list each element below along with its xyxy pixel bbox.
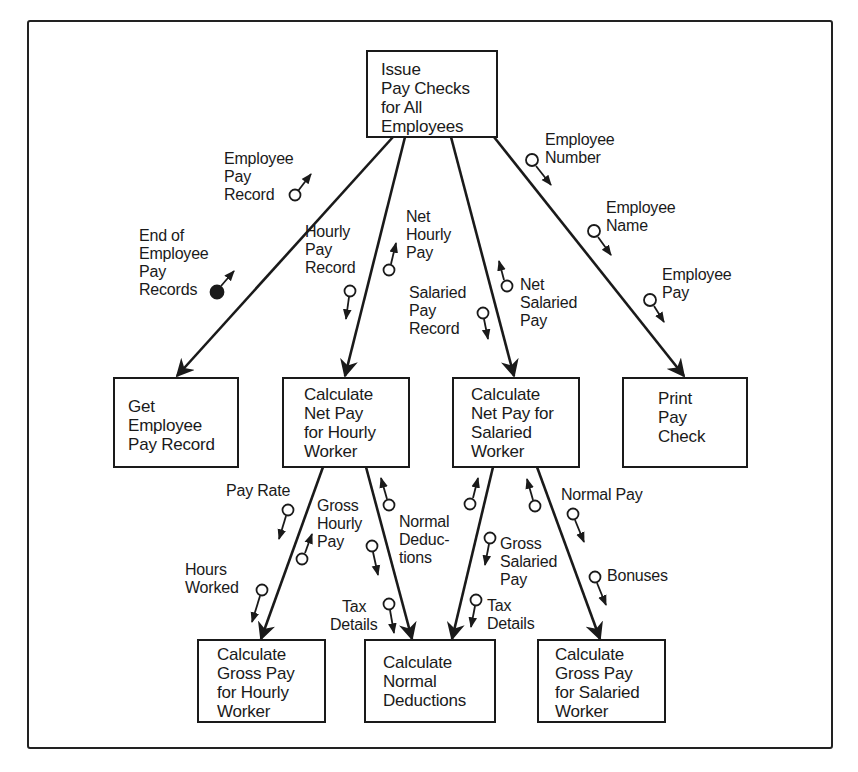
label-line: Pay	[520, 312, 577, 330]
label-line: Details	[487, 615, 535, 633]
label-line: Pay	[317, 533, 362, 551]
label-tax-details-salaried: Tax Details	[487, 597, 535, 633]
module-line: Deductions	[383, 691, 484, 710]
couple-normal-deductions-salaried-icon	[465, 478, 479, 510]
couple-tax-details-hourly-b-icon	[384, 599, 395, 634]
label-normal-deductions: Normal Deduc- tions	[399, 513, 449, 567]
label-line: Hours	[185, 561, 239, 579]
label-line: Worked	[185, 579, 239, 597]
module-line: Net Pay	[304, 404, 398, 423]
couple-bonuses-icon	[590, 572, 607, 606]
label-salaried-pay-record: Salaried Pay Record	[409, 284, 466, 338]
label-line: Gross	[500, 535, 557, 553]
label-employee-pay-record: Employee Pay Record	[224, 150, 294, 204]
module-line: Get	[128, 397, 227, 416]
label-net-hourly-pay: Net Hourly Pay	[406, 208, 451, 262]
label-line: Salaried	[500, 553, 557, 571]
label-line: Details	[330, 616, 378, 634]
module-line: Pay Record	[128, 435, 227, 454]
label-line: Employee	[545, 131, 615, 149]
module-print-pay-check: Print Pay Check	[622, 377, 748, 468]
module-line: Calculate	[383, 653, 484, 672]
label-tax-details-hourly: Tax Details	[330, 598, 378, 634]
label-line: Hourly	[305, 223, 355, 241]
module-line: Print	[658, 389, 736, 408]
label-line: Pay	[662, 284, 732, 302]
couple-hours-worked-icon	[252, 585, 268, 623]
label-line: Pay	[305, 241, 355, 259]
module-normal-deductions: Calculate Normal Deductions	[364, 639, 496, 723]
module-line: for All	[381, 98, 486, 117]
label-line: Hourly	[317, 515, 362, 533]
label-bonuses: Bonuses	[607, 567, 668, 585]
label-employee-pay: Employee Pay	[662, 266, 732, 302]
module-line: Calculate	[555, 645, 654, 664]
label-line: Bonuses	[607, 567, 668, 585]
label-line: Record	[224, 186, 294, 204]
label-line: Pay	[224, 168, 294, 186]
label-gross-salaried-pay: Gross Salaried Pay	[500, 535, 557, 589]
module-line: Normal	[383, 672, 484, 691]
label-line: Record	[409, 320, 466, 338]
couple-end-of-records-icon	[211, 271, 235, 299]
label-line: Number	[545, 149, 615, 167]
module-net-pay-salaried: Calculate Net Pay for Salaried Worker	[452, 377, 580, 468]
module-line: Net Pay for	[471, 404, 568, 423]
module-line: Gross Pay	[555, 664, 654, 683]
couple-salaried-pay-record-icon	[478, 308, 489, 340]
couple-net-hourly-pay-icon	[384, 243, 397, 276]
module-line: Calculate	[471, 385, 568, 404]
module-line: for Hourly	[304, 423, 398, 442]
label-hours-worked: Hours Worked	[185, 561, 239, 597]
label-line: Pay	[409, 302, 466, 320]
label-line: Employee	[224, 150, 294, 168]
module-gross-pay-hourly: Calculate Gross Pay for Hourly Worker	[197, 639, 326, 723]
label-line: End of	[139, 227, 209, 245]
couple-normal-deductions-hourly-icon	[381, 478, 395, 511]
label-line: Pay	[139, 263, 209, 281]
label-line: Normal Pay	[561, 486, 643, 504]
module-line: for Hourly	[217, 683, 314, 702]
module-line: Salaried	[471, 423, 568, 442]
couple-net-salaried-pay-icon	[499, 261, 513, 292]
module-gross-pay-salaried: Calculate Gross Pay for Salaried Worker	[537, 639, 666, 723]
module-line: Pay	[658, 408, 736, 427]
label-line: Tax	[487, 597, 535, 615]
label-gross-hourly-pay: Gross Hourly Pay	[317, 497, 362, 551]
label-employee-number: Employee Number	[545, 131, 615, 167]
module-net-pay-hourly: Calculate Net Pay for Hourly Worker	[282, 377, 410, 468]
label-net-salaried-pay: Net Salaried Pay	[520, 276, 577, 330]
couple-gross-hourly-pay-icon	[297, 534, 313, 565]
label-line: Normal	[399, 513, 449, 531]
module-line: Pay Checks	[381, 79, 486, 98]
label-normal-pay: Normal Pay	[561, 486, 643, 504]
label-employee-name: Employee Name	[606, 199, 676, 235]
label-line: Employee	[139, 245, 209, 263]
couple-hourly-pay-record-icon	[345, 286, 356, 320]
label-end-of-employee-pay-records: End of Employee Pay Records	[139, 227, 209, 299]
module-line: Worker	[555, 702, 654, 721]
label-line: Name	[606, 217, 676, 235]
label-pay-rate: Pay Rate	[226, 482, 290, 500]
module-issue-pay-checks: Issue Pay Checks for All Employees	[366, 50, 498, 138]
label-line: Pay	[406, 244, 451, 262]
label-line: Gross	[317, 497, 362, 515]
module-line: Check	[658, 427, 736, 446]
label-line: Record	[305, 259, 355, 277]
label-line: Tax	[330, 598, 378, 616]
label-line: tions	[399, 549, 449, 567]
couple-normal-pay-icon	[568, 509, 585, 543]
label-line: Net	[520, 276, 577, 294]
module-get-employee-pay-record: Get Employee Pay Record	[113, 377, 239, 468]
label-line: Deduc-	[399, 531, 449, 549]
label-line: Pay	[500, 571, 557, 589]
label-line: Employee	[662, 266, 732, 284]
call-root-net-salaried	[451, 137, 514, 376]
label-line: Net	[406, 208, 451, 226]
module-line: Worker	[304, 442, 398, 461]
call-root-print-check	[494, 137, 684, 376]
module-line: Employee	[128, 416, 227, 435]
couple-pay-rate-icon	[279, 505, 294, 540]
couple-tax-details-salaried-icon	[471, 595, 482, 628]
module-line: for Salaried	[555, 683, 654, 702]
